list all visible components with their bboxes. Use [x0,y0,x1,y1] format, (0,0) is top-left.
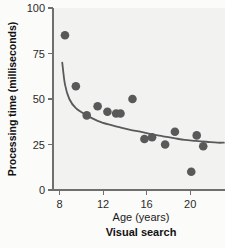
panel-title: Visual search [106,226,177,238]
y-tick-label: 50 [33,93,45,105]
chart-canvas: 0255075100 8121620 Processing time (mill… [0,0,225,248]
data-point [192,131,201,140]
plot-area-background [53,8,225,190]
data-point [187,168,196,177]
data-point [128,95,137,104]
data-point [171,127,180,136]
x-tick-label: 20 [184,198,196,210]
data-point [103,107,112,116]
y-axis-ticks: 0255075100 [27,2,53,196]
data-point [72,82,81,91]
data-point [161,140,170,149]
y-tick-label: 75 [33,48,45,60]
y-tick-label: 0 [39,184,45,196]
visual-search-scatter-figure: 0255075100 8121620 Processing time (mill… [0,0,225,248]
y-tick-label: 25 [33,139,45,151]
x-tick-label: 16 [140,198,152,210]
data-point [93,102,102,111]
data-point [61,31,70,40]
y-tick-label: 100 [27,2,45,14]
x-tick-label: 8 [56,198,62,210]
data-point [148,133,157,142]
x-tick-label: 12 [97,198,109,210]
data-point [140,135,149,144]
data-point [116,109,125,118]
y-axis-title: Processing time (milliseconds) [6,22,18,177]
data-point [82,111,91,120]
x-axis-ticks: 8121620 [56,190,196,210]
data-point [199,142,208,151]
x-axis-title: Age (years) [113,211,170,223]
